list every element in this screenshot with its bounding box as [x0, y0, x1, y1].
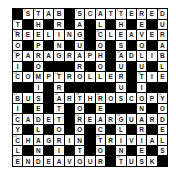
grid-cell[interactable]: A	[23, 114, 32, 124]
grid-cell[interactable]: 18A	[54, 93, 63, 103]
grid-cell[interactable]: O	[137, 93, 146, 103]
grid-cell[interactable]: R	[34, 51, 43, 61]
grid-cell[interactable]: L	[96, 72, 105, 82]
grid-cell[interactable]: O	[75, 72, 84, 82]
grid-cell[interactable]: R	[116, 72, 125, 82]
grid-cell[interactable]: R	[54, 20, 63, 30]
grid-cell[interactable]: E	[44, 114, 53, 124]
grid-cell[interactable]: P	[147, 93, 156, 103]
grid-cell[interactable]: O	[13, 41, 22, 51]
grid-cell[interactable]: 16T	[137, 72, 146, 82]
grid-cell[interactable]: T	[106, 9, 115, 19]
grid-cell[interactable]: I	[116, 135, 125, 145]
grid-cell[interactable]: L	[116, 125, 125, 135]
grid-cell[interactable]: 4S	[75, 9, 84, 19]
grid-cell[interactable]: E	[158, 72, 167, 82]
grid-cell[interactable]: I	[137, 83, 146, 93]
grid-cell[interactable]: R	[96, 156, 105, 166]
grid-cell[interactable]: O	[106, 93, 115, 103]
grid-cell[interactable]: D	[127, 51, 136, 61]
grid-cell[interactable]: P	[44, 72, 53, 82]
grid-cell[interactable]: E	[147, 9, 156, 19]
grid-cell[interactable]: I	[54, 30, 63, 40]
grid-cell[interactable]: R	[147, 114, 156, 124]
grid-cell[interactable]: N	[116, 146, 125, 156]
grid-cell[interactable]: V	[137, 30, 146, 40]
grid-cell[interactable]: N	[65, 30, 74, 40]
grid-cell[interactable]: T	[75, 146, 84, 156]
grid-cell[interactable]: P	[34, 41, 43, 51]
grid-cell[interactable]: S	[34, 93, 43, 103]
grid-cell[interactable]: U	[75, 41, 84, 51]
grid-cell[interactable]: 6T	[116, 9, 125, 19]
grid-cell[interactable]: L	[158, 62, 167, 72]
grid-cell[interactable]: G	[54, 51, 63, 61]
grid-cell[interactable]: 19T	[75, 93, 84, 103]
grid-cell[interactable]: N	[23, 156, 32, 166]
grid-cell[interactable]: I	[137, 135, 146, 145]
grid-cell[interactable]: L	[44, 30, 53, 40]
grid-cell[interactable]: H	[23, 135, 32, 145]
grid-cell[interactable]: U	[85, 156, 94, 166]
grid-cell[interactable]: L	[85, 72, 94, 82]
grid-cell[interactable]: O	[34, 62, 43, 72]
grid-cell[interactable]: I	[147, 72, 156, 82]
grid-cell[interactable]: P	[85, 51, 94, 61]
grid-cell[interactable]: U	[137, 62, 146, 72]
grid-cell[interactable]: E	[34, 30, 43, 40]
grid-cell[interactable]: A	[147, 135, 156, 145]
grid-cell[interactable]: S	[137, 156, 146, 166]
grid-cell[interactable]: 8D	[158, 9, 167, 19]
grid-cell[interactable]: I	[13, 62, 22, 72]
grid-cell[interactable]: O	[75, 156, 84, 166]
grid-cell[interactable]: L	[34, 125, 43, 135]
grid-cell[interactable]: D	[34, 114, 43, 124]
grid-cell[interactable]: H	[34, 20, 43, 30]
grid-cell[interactable]: O	[137, 41, 146, 51]
grid-cell[interactable]: 13A	[116, 51, 125, 61]
grid-cell[interactable]: E	[44, 156, 53, 166]
grid-cell[interactable]: 14C	[13, 72, 22, 82]
grid-cell[interactable]: R	[65, 51, 74, 61]
grid-cell[interactable]: 15T	[54, 72, 63, 82]
grid-cell[interactable]: H	[96, 51, 105, 61]
grid-cell[interactable]: O	[75, 125, 84, 135]
grid-cell[interactable]: H	[85, 93, 94, 103]
grid-cell[interactable]: U	[116, 62, 125, 72]
grid-cell[interactable]: U	[23, 93, 32, 103]
grid-cell[interactable]: U	[158, 20, 167, 30]
grid-cell[interactable]: R	[137, 125, 146, 135]
grid-cell[interactable]: E	[96, 104, 105, 114]
grid-cell[interactable]: R	[106, 114, 115, 124]
grid-cell[interactable]: R	[158, 30, 167, 40]
grid-cell[interactable]: 20R	[96, 93, 105, 103]
grid-cell[interactable]: A	[137, 114, 146, 124]
grid-cell[interactable]: A	[44, 51, 53, 61]
grid-cell[interactable]: R	[54, 135, 63, 145]
grid-cell[interactable]: 24G	[116, 114, 125, 124]
grid-cell[interactable]: 10R	[13, 30, 22, 40]
grid-cell[interactable]: V	[65, 156, 74, 166]
grid-cell[interactable]: I	[34, 83, 43, 93]
grid-cell[interactable]: N	[137, 104, 146, 114]
grid-cell[interactable]: G	[44, 135, 53, 145]
grid-cell[interactable]: O	[23, 72, 32, 82]
grid-cell[interactable]: D	[34, 156, 43, 166]
grid-cell[interactable]: 27E	[13, 156, 22, 166]
grid-cell[interactable]: T	[54, 114, 63, 124]
grid-cell[interactable]: E	[23, 30, 32, 40]
grid-cell[interactable]: T	[54, 104, 63, 114]
grid-cell[interactable]: S	[116, 41, 125, 51]
grid-cell[interactable]: A	[34, 135, 43, 145]
grid-cell[interactable]: 23R	[75, 114, 84, 124]
grid-cell[interactable]: V	[127, 135, 136, 145]
grid-cell[interactable]: I	[54, 146, 63, 156]
grid-cell[interactable]: 25C	[13, 135, 22, 145]
grid-cell[interactable]: 21Y	[158, 93, 167, 103]
grid-cell[interactable]: I	[13, 104, 22, 114]
grid-cell[interactable]: A	[127, 30, 136, 40]
grid-cell[interactable]: L	[13, 146, 22, 156]
grid-cell[interactable]: O	[54, 125, 63, 135]
grid-cell[interactable]: U	[127, 114, 136, 124]
grid-cell[interactable]: E	[85, 114, 94, 124]
